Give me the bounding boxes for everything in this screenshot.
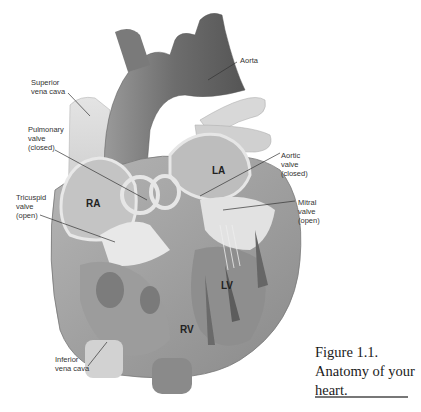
left-atrium-shape	[170, 134, 250, 200]
label-inferior-vena-cava: Inferior vena cava	[55, 355, 89, 373]
label-tricuspid-valve: Tricuspid valve (open)	[16, 193, 46, 220]
label-superior-vena-cava: Superior vena cava	[31, 78, 65, 96]
label-aorta: Aorta	[240, 56, 258, 65]
figure-caption: Figure 1.1. Anatomy of your heart.	[315, 343, 415, 400]
left-ventricle-shape	[191, 247, 266, 346]
chamber-label-rv: RV	[180, 324, 194, 335]
chamber-label-la: LA	[212, 165, 225, 176]
label-mitral-valve: Mitral valve (open)	[298, 198, 320, 225]
caption-underline	[315, 396, 408, 398]
chamber-label-ra: RA	[86, 198, 100, 209]
chamber-label-lv: LV	[221, 280, 233, 291]
label-aortic-valve: Aortic valve (closed)	[281, 151, 308, 178]
label-pulmonary-valve: Pulmonary valve (closed)	[28, 125, 64, 152]
